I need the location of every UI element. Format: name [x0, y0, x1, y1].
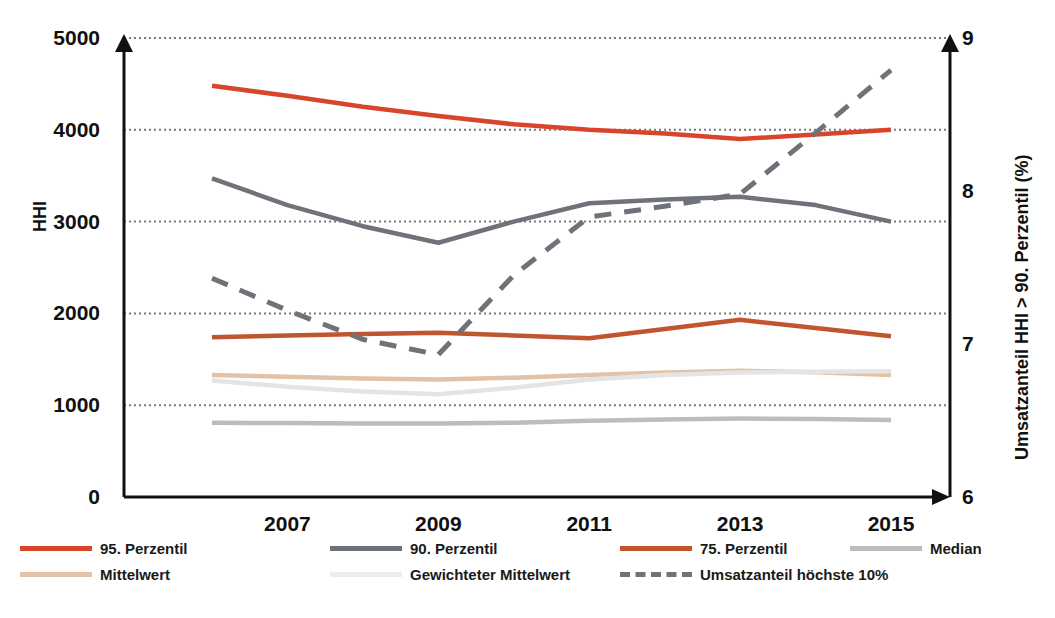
legend-label: Umsatzanteil höchste 10% [700, 566, 888, 583]
legend-row: 95. Perzentil90. Perzentil75. PerzentilM… [0, 540, 1055, 566]
legend-label: Median [930, 540, 982, 557]
legend-swatch-icon [850, 546, 922, 551]
legend-item[interactable]: 75. Perzentil [620, 540, 788, 557]
legend-item[interactable]: Umsatzanteil höchste 10% [620, 566, 888, 583]
legend-item[interactable]: Gewichteter Mittelwert [330, 566, 570, 583]
legend-item[interactable]: 95. Perzentil [20, 540, 188, 557]
series-line-3 [212, 419, 891, 424]
chart-legend: 95. Perzentil90. Perzentil75. PerzentilM… [0, 540, 1055, 592]
series-line-2 [212, 320, 891, 338]
legend-label: Mittelwert [100, 566, 170, 583]
series-line-1 [212, 178, 891, 242]
legend-swatch-icon [330, 572, 402, 577]
legend-swatch-icon [20, 572, 92, 577]
series-line-0 [212, 86, 891, 139]
legend-swatch-icon [620, 546, 692, 551]
legend-item[interactable]: Median [850, 540, 982, 557]
legend-label: Gewichteter Mittelwert [410, 566, 570, 583]
legend-swatch-icon [20, 546, 92, 551]
legend-row: MittelwertGewichteter MittelwertUmsatzan… [0, 566, 1055, 592]
legend-swatch-icon [620, 572, 692, 577]
legend-swatch-icon [330, 546, 402, 551]
legend-label: 90. Perzentil [410, 540, 498, 557]
legend-item[interactable]: 90. Perzentil [330, 540, 498, 557]
legend-item[interactable]: Mittelwert [20, 566, 170, 583]
chart-series-layer [0, 0, 1055, 618]
chart-figure: HHI Umsatzanteil HHI > 90. Perzentil (%)… [0, 0, 1055, 618]
legend-label: 95. Perzentil [100, 540, 188, 557]
legend-label: 75. Perzentil [700, 540, 788, 557]
